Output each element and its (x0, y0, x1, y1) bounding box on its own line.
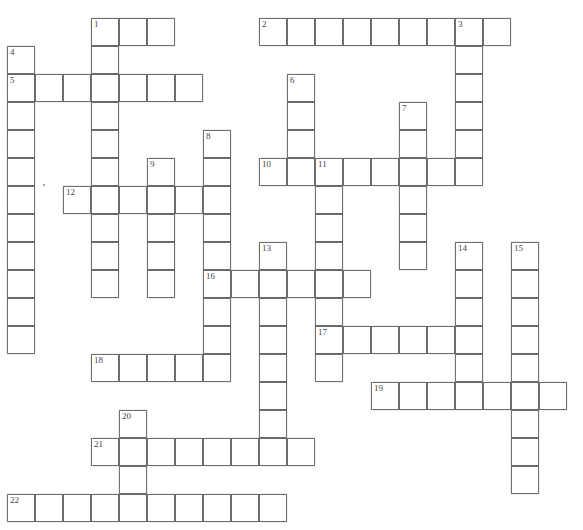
crossword-cell[interactable] (315, 186, 343, 214)
crossword-cell[interactable]: 16 (203, 270, 231, 298)
crossword-cell[interactable] (427, 18, 455, 46)
crossword-cell[interactable] (175, 494, 203, 522)
crossword-cell[interactable] (455, 46, 483, 74)
crossword-cell[interactable] (315, 354, 343, 382)
crossword-cell[interactable] (203, 298, 231, 326)
crossword-cell[interactable] (315, 298, 343, 326)
crossword-cell[interactable] (511, 326, 539, 354)
crossword-cell[interactable] (343, 18, 371, 46)
crossword-cell[interactable] (399, 326, 427, 354)
crossword-cell[interactable] (7, 242, 35, 270)
crossword-cell[interactable] (539, 382, 567, 410)
crossword-cell[interactable]: 6 (287, 74, 315, 102)
crossword-cell[interactable]: 11 (315, 158, 343, 186)
crossword-cell[interactable] (511, 298, 539, 326)
crossword-cell[interactable] (259, 410, 287, 438)
crossword-cell[interactable] (91, 130, 119, 158)
crossword-cell[interactable] (119, 438, 147, 466)
crossword-cell[interactable] (287, 102, 315, 130)
crossword-cell[interactable] (147, 242, 175, 270)
crossword-cell[interactable] (455, 354, 483, 382)
crossword-cell[interactable]: 20 (119, 410, 147, 438)
crossword-cell[interactable] (35, 74, 63, 102)
crossword-cell[interactable] (315, 18, 343, 46)
crossword-cell[interactable] (343, 158, 371, 186)
crossword-cell[interactable] (455, 102, 483, 130)
crossword-cell[interactable] (259, 382, 287, 410)
crossword-cell[interactable] (175, 74, 203, 102)
crossword-cell[interactable] (91, 242, 119, 270)
crossword-cell[interactable] (287, 130, 315, 158)
crossword-cell[interactable] (399, 382, 427, 410)
crossword-cell[interactable]: 21 (91, 438, 119, 466)
crossword-cell[interactable] (7, 326, 35, 354)
crossword-cell[interactable] (119, 466, 147, 494)
crossword-cell[interactable] (427, 382, 455, 410)
crossword-cell[interactable] (203, 438, 231, 466)
crossword-cell[interactable] (119, 18, 147, 46)
crossword-cell[interactable] (455, 130, 483, 158)
crossword-cell[interactable] (399, 186, 427, 214)
crossword-cell[interactable] (315, 214, 343, 242)
crossword-cell[interactable] (7, 270, 35, 298)
crossword-cell[interactable] (399, 130, 427, 158)
crossword-cell[interactable]: 4 (7, 46, 35, 74)
crossword-cell[interactable] (175, 354, 203, 382)
crossword-cell[interactable] (7, 130, 35, 158)
crossword-cell[interactable]: 13 (259, 242, 287, 270)
crossword-cell[interactable] (511, 382, 539, 410)
crossword-cell[interactable] (399, 158, 427, 186)
crossword-cell[interactable] (399, 242, 427, 270)
crossword-cell[interactable] (455, 270, 483, 298)
crossword-cell[interactable] (371, 326, 399, 354)
crossword-cell[interactable] (91, 270, 119, 298)
crossword-cell[interactable] (91, 102, 119, 130)
crossword-cell[interactable] (91, 74, 119, 102)
crossword-cell[interactable] (7, 214, 35, 242)
crossword-cell[interactable]: 5 (7, 74, 35, 102)
crossword-cell[interactable] (483, 382, 511, 410)
crossword-cell[interactable] (427, 158, 455, 186)
crossword-cell[interactable]: 18 (91, 354, 119, 382)
crossword-cell[interactable] (315, 270, 343, 298)
crossword-cell[interactable] (231, 438, 259, 466)
crossword-cell[interactable] (511, 270, 539, 298)
crossword-cell[interactable] (147, 438, 175, 466)
crossword-cell[interactable] (119, 354, 147, 382)
crossword-cell[interactable] (91, 158, 119, 186)
crossword-cell[interactable]: 7 (399, 102, 427, 130)
crossword-cell[interactable] (287, 18, 315, 46)
crossword-cell[interactable] (7, 102, 35, 130)
crossword-cell[interactable] (259, 354, 287, 382)
crossword-cell[interactable] (147, 186, 175, 214)
crossword-cell[interactable] (259, 326, 287, 354)
crossword-cell[interactable]: 1 (91, 18, 119, 46)
crossword-cell[interactable] (287, 438, 315, 466)
crossword-cell[interactable] (287, 270, 315, 298)
crossword-cell[interactable]: 22 (7, 494, 35, 522)
crossword-cell[interactable] (455, 158, 483, 186)
crossword-cell[interactable] (399, 214, 427, 242)
crossword-cell[interactable] (511, 354, 539, 382)
crossword-cell[interactable] (455, 326, 483, 354)
crossword-cell[interactable] (371, 18, 399, 46)
crossword-cell[interactable] (343, 326, 371, 354)
crossword-cell[interactable] (483, 18, 511, 46)
crossword-cell[interactable] (119, 186, 147, 214)
crossword-cell[interactable] (147, 74, 175, 102)
crossword-cell[interactable] (147, 214, 175, 242)
crossword-cell[interactable]: 9 (147, 158, 175, 186)
crossword-cell[interactable] (175, 438, 203, 466)
crossword-cell[interactable] (119, 74, 147, 102)
crossword-cell[interactable] (427, 326, 455, 354)
crossword-cell[interactable] (203, 214, 231, 242)
crossword-cell[interactable] (259, 298, 287, 326)
crossword-cell[interactable] (147, 18, 175, 46)
crossword-cell[interactable]: 14 (455, 242, 483, 270)
crossword-cell[interactable] (287, 158, 315, 186)
crossword-cell[interactable] (147, 354, 175, 382)
crossword-cell[interactable]: 3 (455, 18, 483, 46)
crossword-cell[interactable] (343, 270, 371, 298)
crossword-cell[interactable]: 15 (511, 242, 539, 270)
crossword-cell[interactable] (63, 494, 91, 522)
